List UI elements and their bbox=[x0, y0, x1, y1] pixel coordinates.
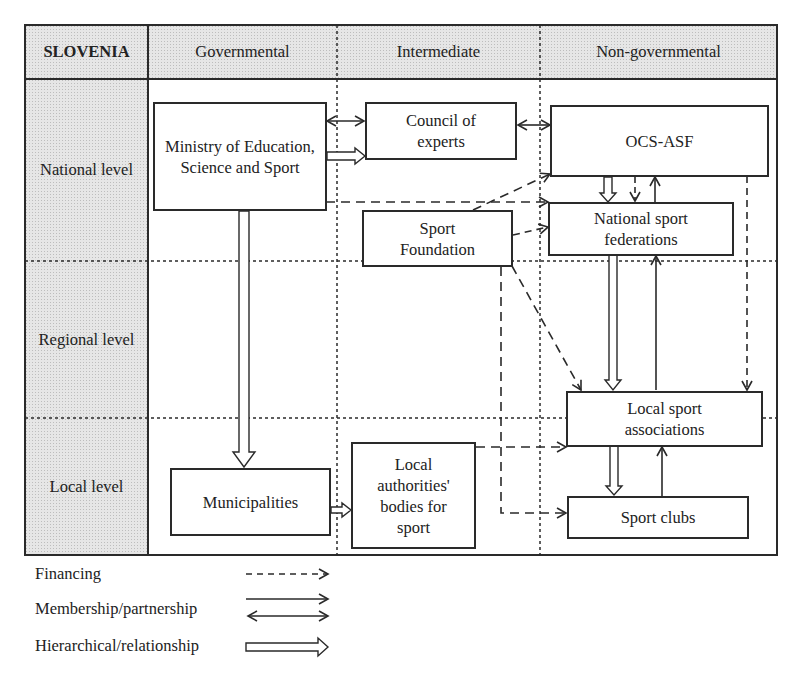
node-municipalities-label: Municipalities bbox=[203, 492, 298, 513]
node-ocs-asf: OCS-ASF bbox=[550, 105, 769, 177]
node-local-associations-label: Local sport associations bbox=[610, 398, 720, 440]
node-local-authorities-bodies: Local authorities' bodies for sport bbox=[351, 442, 476, 549]
legend-hierarchical-label: Hierarchical/relationship bbox=[35, 636, 199, 656]
legend-membership-label: Membership/partnership bbox=[35, 599, 197, 619]
node-ministry-label: Ministry of Education, Science and Sport bbox=[165, 136, 315, 178]
node-sport-clubs: Sport clubs bbox=[567, 496, 749, 539]
node-ocs-asf-label: OCS-ASF bbox=[626, 131, 694, 152]
node-municipalities: Municipalities bbox=[170, 468, 331, 536]
node-council-of-experts: Council of experts bbox=[365, 102, 517, 160]
node-sport-foundation-label: Sport Foundation bbox=[388, 218, 488, 260]
node-council-label: Council of experts bbox=[386, 110, 496, 152]
node-sport-foundation: Sport Foundation bbox=[362, 210, 513, 267]
node-national-sport-federations: National sport federations bbox=[548, 202, 734, 256]
node-local-authorities-label: Local authorities' bodies for sport bbox=[364, 454, 464, 538]
legend-financing-label: Financing bbox=[35, 564, 101, 584]
node-local-sport-associations: Local sport associations bbox=[566, 391, 763, 447]
node-sport-clubs-label: Sport clubs bbox=[621, 507, 696, 528]
node-ministry: Ministry of Education, Science and Sport bbox=[153, 102, 327, 211]
node-nsf-label: National sport federations bbox=[576, 208, 706, 250]
